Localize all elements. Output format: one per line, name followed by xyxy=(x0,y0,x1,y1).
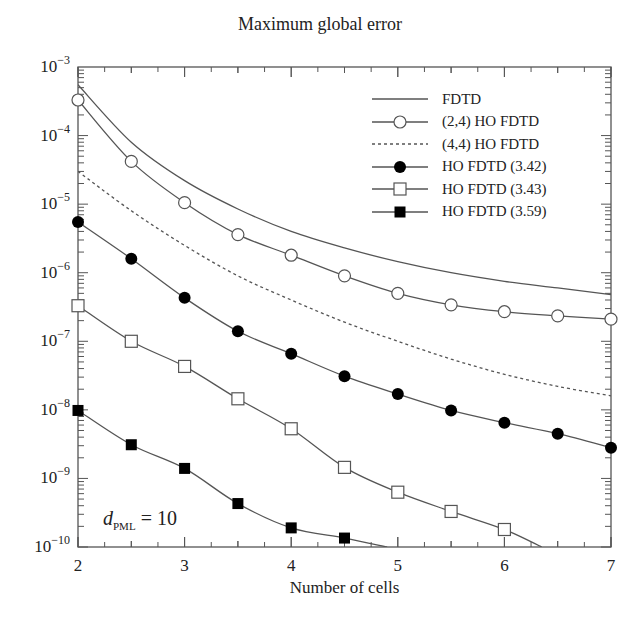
x-tick-label: 7 xyxy=(607,556,616,575)
y-tick-label: 10−8 xyxy=(40,396,70,419)
legend-label: FDTD xyxy=(442,91,481,108)
legend-label: HO FDTD (3.43) xyxy=(442,181,547,198)
y-tick-label: 10−9 xyxy=(40,464,70,487)
legend-label: (2,4) HO FDTD xyxy=(442,113,539,130)
legend-label: HO FDTD (3.42) xyxy=(442,158,547,175)
legend-label: (4,4) HO FDTD xyxy=(442,136,539,153)
legend-swatch-icon xyxy=(372,92,428,106)
legend-item: HO FDTD (3.43) xyxy=(372,178,547,201)
legend: FDTD(2,4) HO FDTD(4,4) HO FDTDHO FDTD (3… xyxy=(372,88,547,223)
x-tick-label: 2 xyxy=(74,556,83,575)
x-tick-label: 5 xyxy=(394,556,403,575)
x-axis-label: Number of cells xyxy=(78,578,611,598)
y-tick-label: 10−6 xyxy=(40,259,70,282)
legend-swatch-icon xyxy=(372,205,428,219)
x-tick-label: 4 xyxy=(287,556,296,575)
chart-title: Maximum global error xyxy=(0,14,640,35)
x-tick-label: 6 xyxy=(500,556,509,575)
legend-item: FDTD xyxy=(372,88,547,111)
legend-label: HO FDTD (3.59) xyxy=(442,203,547,220)
series-3 xyxy=(72,216,617,454)
legend-item: (2,4) HO FDTD xyxy=(372,111,547,134)
y-tick-label: 10−10 xyxy=(34,533,70,556)
y-tick-label: 10−7 xyxy=(40,327,70,350)
y-tick-label: 10−4 xyxy=(40,122,70,145)
legend-item: (4,4) HO FDTD xyxy=(372,133,547,156)
legend-swatch-icon xyxy=(372,182,428,196)
y-tick-label: 10−3 xyxy=(40,53,70,76)
y-tick-label: 10−5 xyxy=(40,190,70,213)
legend-item: HO FDTD (3.42) xyxy=(372,156,547,179)
annotation-dpml: dPML = 10 xyxy=(103,507,177,532)
x-tick-label: 3 xyxy=(180,556,189,575)
legend-swatch-icon xyxy=(372,115,428,129)
legend-item: HO FDTD (3.59) xyxy=(372,201,547,224)
legend-swatch-icon xyxy=(372,137,428,151)
legend-swatch-icon xyxy=(372,160,428,174)
